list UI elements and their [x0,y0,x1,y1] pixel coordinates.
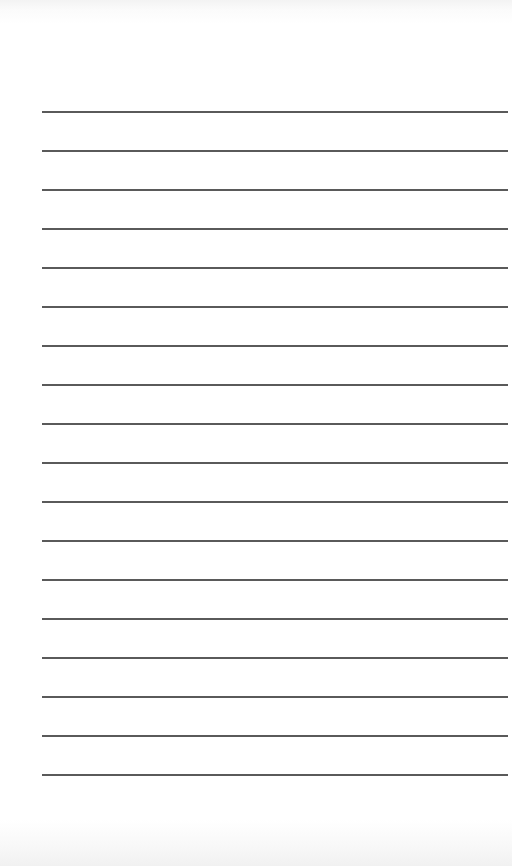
ruled-line [42,618,508,620]
ruled-line [42,579,508,581]
ruled-line [42,150,508,152]
ruled-line [42,306,508,308]
ruled-line [42,540,508,542]
ruled-line [42,384,508,386]
ruled-line [42,267,508,269]
ruled-line [42,774,508,776]
ruled-line [42,345,508,347]
ruled-line [42,111,508,113]
ruled-line [42,189,508,191]
ruled-line [42,462,508,464]
lined-paper-page [0,0,512,866]
ruled-line [42,735,508,737]
ruled-line [42,423,508,425]
ruled-line [42,501,508,503]
ruled-line [42,657,508,659]
ruled-line [42,696,508,698]
ruled-line [42,228,508,230]
